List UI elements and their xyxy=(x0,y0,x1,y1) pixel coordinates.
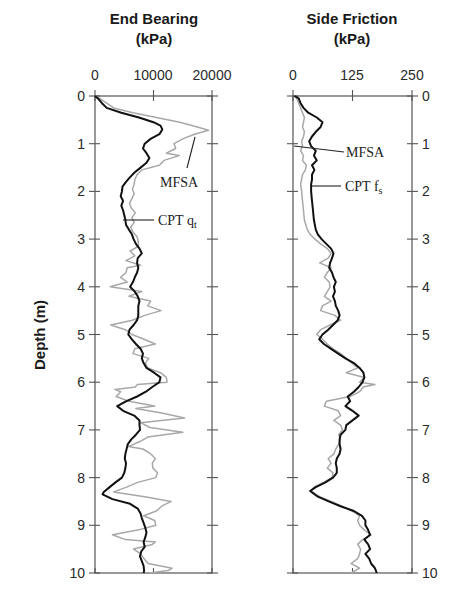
axis-ticks xyxy=(89,90,218,573)
y-tick-label: 8 xyxy=(77,470,85,486)
y-tick-label: 2 xyxy=(422,183,430,199)
y-tick-label: 6 xyxy=(422,374,430,390)
y-tick-label: 7 xyxy=(422,422,430,438)
panel-title-line2: (kPa) xyxy=(334,30,371,47)
y-tick-label: 8 xyxy=(422,470,430,486)
x-tick-label: 20000 xyxy=(193,67,232,83)
y-tick-label: 5 xyxy=(77,327,85,343)
annotation-mfsa: MFSA xyxy=(160,175,199,190)
y-tick-label: 3 xyxy=(77,231,85,247)
y-tick-label: 0 xyxy=(422,88,430,104)
panel-end-bearing: End Bearing (kPa) 0 10000 20000 01234567… xyxy=(69,10,231,581)
annotation-cpt-qt: CPT qt xyxy=(158,213,197,230)
y-tick-label: 7 xyxy=(77,422,85,438)
y-tick-label: 1 xyxy=(77,136,85,152)
series-cpt-fs-line xyxy=(294,96,376,573)
annotation-cpt-fs: CPT fs xyxy=(345,179,383,196)
y-tick-label: 3 xyxy=(422,231,430,247)
y-tick-label: 9 xyxy=(422,517,430,533)
y-tick-label: 4 xyxy=(422,279,430,295)
figure-canvas: Depth (m) End Bearing (kPa) 0 10000 2000… xyxy=(0,0,460,609)
x-tick-label: 10000 xyxy=(134,67,173,83)
x-tick-label: 125 xyxy=(340,67,364,83)
y-tick-label: 4 xyxy=(77,279,85,295)
annotation-leader-mfsa xyxy=(187,137,195,168)
depth-profile-figure: Depth (m) End Bearing (kPa) 0 10000 2000… xyxy=(0,0,460,609)
x-tick-label: 0 xyxy=(91,67,99,83)
y-tick-label: 2 xyxy=(77,183,85,199)
axis-ticks xyxy=(287,90,418,573)
x-tick-label: 0 xyxy=(289,67,297,83)
panel-side-friction: Side Friction (kPa) 0 125 250 0123456789… xyxy=(287,10,438,581)
y-tick-labels: 012345678910 xyxy=(422,88,438,581)
y-axis-label: Depth (m) xyxy=(31,300,48,370)
panel-title-line1: Side Friction xyxy=(307,10,398,27)
plot-frame xyxy=(293,96,412,573)
y-tick-label: 6 xyxy=(77,374,85,390)
y-tick-label: 5 xyxy=(422,327,430,343)
annotation-mfsa: MFSA xyxy=(346,145,385,160)
y-tick-label: 0 xyxy=(77,88,85,104)
y-tick-label: 10 xyxy=(422,565,438,581)
x-tick-label: 250 xyxy=(400,67,424,83)
panel-title-line2: (kPa) xyxy=(136,30,173,47)
series-mfsa-line xyxy=(294,96,375,573)
series-mfsa-line xyxy=(95,96,209,573)
y-tick-label: 1 xyxy=(422,136,430,152)
y-tick-label: 9 xyxy=(77,517,85,533)
y-tick-labels: 012345678910 xyxy=(69,88,85,581)
y-tick-label: 10 xyxy=(69,565,85,581)
panel-title-line1: End Bearing xyxy=(110,10,198,27)
